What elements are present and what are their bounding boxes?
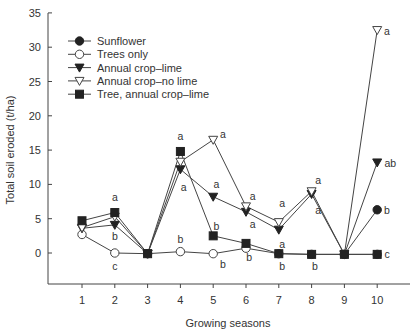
- significance-label: b: [246, 251, 252, 263]
- data-point-annual-crop-lime: [209, 193, 218, 201]
- significance-label: a: [279, 238, 285, 250]
- legend-label: Sunflower: [97, 35, 146, 47]
- data-point-trees-only: [176, 247, 184, 255]
- data-point-annual-crop-no-lime: [373, 27, 382, 35]
- series-line-annual-crop-lime: [82, 162, 377, 254]
- data-point-annual-crop-no-lime: [274, 219, 283, 227]
- y-axis-label: Total soil eroded (t/ha): [4, 96, 16, 205]
- series-line-trees-only: [82, 234, 377, 254]
- y-tick-label: 30: [29, 41, 41, 53]
- x-tick-label: 9: [341, 294, 347, 306]
- data-point-tree-annual-crop-lime: [176, 147, 184, 155]
- data-point-trees-only: [111, 249, 119, 257]
- legend-label: Trees only: [97, 48, 148, 60]
- x-tick-label: 1: [79, 294, 85, 306]
- significance-label: b: [384, 204, 390, 216]
- legend-marker: [76, 90, 84, 98]
- significance-label: b: [220, 258, 226, 270]
- significance-label: a: [112, 191, 118, 203]
- data-point-tree-annual-crop-lime: [275, 250, 283, 258]
- significance-label: b: [312, 260, 318, 272]
- y-tick-label: 10: [29, 178, 41, 190]
- legend-item-tree-annual-crop-lime: Tree, annual crop–lime: [68, 88, 209, 100]
- data-point-tree-annual-crop-lime: [111, 209, 119, 217]
- x-tick-label: 6: [243, 294, 249, 306]
- data-point-tree-annual-crop-lime: [78, 217, 86, 225]
- y-tick-label: 25: [29, 76, 41, 88]
- legend: SunflowerTrees onlyAnnual crop–limeAnnua…: [68, 35, 209, 100]
- data-point-tree-annual-crop-lime: [144, 250, 152, 258]
- significance-label: c: [384, 248, 389, 260]
- legend-label: Tree, annual crop–lime: [97, 88, 209, 100]
- y-tick-label: 0: [35, 247, 41, 259]
- legend-label: Annual crop–lime: [97, 62, 182, 74]
- y-tick-label: 35: [29, 7, 41, 19]
- x-tick-label: 4: [177, 294, 183, 306]
- significance-label: b: [112, 230, 118, 242]
- data-point-annual-crop-no-lime: [209, 136, 218, 144]
- y-tick-label: 20: [29, 110, 41, 122]
- significance-label: a: [250, 190, 256, 202]
- significance-label: a: [250, 218, 256, 230]
- significance-label: a: [315, 204, 321, 216]
- x-tick-label: 2: [112, 294, 118, 306]
- legend-marker: [75, 37, 83, 45]
- x-tick-label: 3: [145, 294, 151, 306]
- data-point-tree-annual-crop-lime: [373, 250, 381, 258]
- legend-label: Annual crop–no lime: [97, 75, 197, 87]
- soil-erosion-chart: 0510152025303512345678910 abcaabaabbaaba…: [0, 0, 419, 331]
- x-tick-label: 8: [309, 294, 315, 306]
- data-point-tree-annual-crop-lime: [209, 232, 217, 240]
- y-tick-label: 5: [35, 213, 41, 225]
- significance-label: a: [177, 130, 183, 142]
- data-point-tree-annual-crop-lime: [340, 250, 348, 258]
- significance-label: b: [177, 233, 183, 245]
- significance-label: a: [384, 25, 390, 37]
- data-point-trees-only: [209, 249, 217, 257]
- y-tick-label: 15: [29, 144, 41, 156]
- significance-label: a: [279, 197, 285, 209]
- series-line-sunflower: [344, 210, 377, 255]
- legend-item-annual-crop-lime: Annual crop–lime: [68, 62, 182, 74]
- legend-marker: [75, 50, 83, 58]
- significance-label: b: [214, 220, 220, 232]
- significance-label: a: [220, 128, 226, 140]
- x-tick-label: 7: [276, 294, 282, 306]
- legend-item-trees-only: Trees only: [68, 48, 148, 60]
- legend-item-annual-crop-no-lime: Annual crop–no lime: [68, 75, 197, 87]
- legend-item-sunflower: Sunflower: [68, 35, 146, 47]
- significance-label: a: [214, 178, 220, 190]
- data-point-tree-annual-crop-lime: [242, 239, 250, 247]
- significance-label: ab: [384, 157, 396, 169]
- significance-label: a: [181, 181, 187, 193]
- significance-label: b: [279, 260, 285, 272]
- significance-label: a: [315, 174, 321, 186]
- x-axis-label: Growing seasons: [186, 317, 271, 329]
- data-point-sunflower: [373, 206, 381, 214]
- series-line-tree-annual-crop-lime: [82, 151, 377, 254]
- data-point-tree-annual-crop-lime: [308, 250, 316, 258]
- significance-label: c: [112, 260, 117, 272]
- data-point-annual-crop-lime: [373, 159, 382, 167]
- x-tick-label: 10: [371, 294, 383, 306]
- x-tick-label: 5: [210, 294, 216, 306]
